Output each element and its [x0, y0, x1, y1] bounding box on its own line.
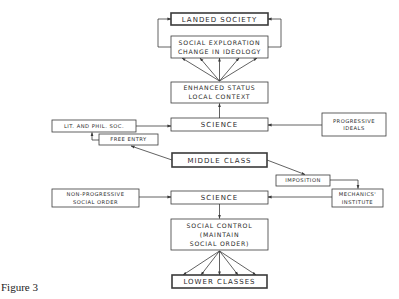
edge-feedback-right [268, 19, 281, 47]
node-label: IMPOSITION [285, 177, 321, 183]
edge-fan-down-1 [183, 251, 220, 275]
node-lit-phil-soc: LIT. AND PHIL. SOC. [52, 120, 136, 132]
node-label: LOWER CLASSES [183, 278, 255, 286]
edge-fan-down-5 [220, 251, 257, 275]
nodes: LANDED SOCIETYSOCIAL EXPLORATIONCHANGE I… [52, 13, 386, 288]
node-label: (MAINTAIN [200, 231, 240, 238]
node-label: SOCIAL ORDER [73, 199, 118, 205]
node-label: LOCAL CONTEXT [189, 93, 251, 100]
edge-middle-to-imposition [267, 160, 305, 175]
node-enhanced-status: ENHANCED STATUSLOCAL CONTEXT [171, 82, 268, 103]
node-label: PROGRESSIVE [333, 118, 375, 124]
node-progressive-ideals: PROGRESSIVEIDEALS [322, 113, 386, 136]
node-middle-class: MIDDLE CLASS [172, 153, 267, 167]
node-label: IDEALS [343, 125, 365, 131]
edge-fan-down-4 [220, 251, 239, 275]
node-label: INSTITUTE [342, 199, 373, 205]
node-label: MECHANICS' [339, 191, 377, 197]
node-label: ENHANCED STATUS [183, 84, 255, 91]
node-label: LIT. AND PHIL. SOC. [64, 123, 124, 129]
edge-feedback-left [158, 19, 171, 47]
node-science-upper: SCIENCE [171, 118, 268, 131]
node-label: CHANGE IN IDEOLOGY [178, 48, 261, 55]
edge-freeentry-to-litphil [92, 133, 99, 141]
node-social-exploration: SOCIAL EXPLORATIONCHANGE IN IDEOLOGY [171, 36, 268, 58]
edge-imposition-to-mechanics [330, 180, 358, 189]
node-label: NON-PROGRESSIVE [67, 191, 125, 197]
node-label: MIDDLE CLASS [187, 157, 251, 165]
node-landed-society: LANDED SOCIETY [171, 13, 268, 25]
edge-fan-up-1 [182, 58, 220, 81]
node-label: FREE ENTRY [110, 136, 147, 142]
node-free-entry: FREE ENTRY [99, 134, 158, 145]
node-social-control: SOCIAL CONTROL(MAINTAINSOCIAL ORDER) [171, 219, 268, 250]
node-lower-classes: LOWER CLASSES [172, 275, 267, 288]
edge-fan-up-2 [200, 58, 220, 81]
figure-caption: Figure 3 [1, 281, 38, 293]
node-imposition: IMPOSITION [276, 175, 330, 186]
flow-diagram: LANDED SOCIETYSOCIAL EXPLORATIONCHANGE I… [0, 0, 399, 299]
node-label: SCIENCE [201, 194, 238, 202]
edge-fan-up-4 [220, 58, 240, 81]
node-label: SOCIAL EXPLORATION [179, 39, 261, 46]
node-science-lower: SCIENCE [171, 191, 268, 204]
node-label: SOCIAL CONTROL [186, 222, 252, 229]
node-non-progressive: NON-PROGRESSIVESOCIAL ORDER [52, 189, 139, 207]
node-label: LANDED SOCIETY [182, 16, 257, 24]
node-label: SCIENCE [201, 121, 238, 129]
edge-middle-to-freeentry [131, 146, 172, 160]
edge-fan-up-5 [220, 58, 258, 81]
node-mechanics-institute: MECHANICS'INSTITUTE [332, 189, 383, 207]
edge-fan-down-2 [201, 251, 220, 275]
node-label: SOCIAL ORDER) [190, 240, 250, 247]
